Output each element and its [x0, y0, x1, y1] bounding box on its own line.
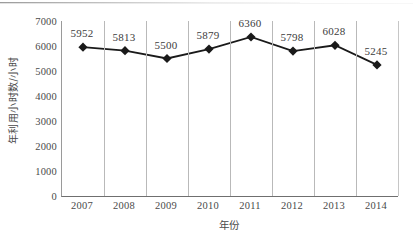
- data-point-label: 5813: [113, 31, 136, 43]
- plot-area: [61, 21, 398, 197]
- y-axis-tick-label: 5000: [35, 66, 57, 77]
- x-axis-tick-label: 2007: [71, 200, 93, 211]
- x-axis-title: 年份: [61, 217, 397, 232]
- y-axis-title-text: 年利用小时数/小时: [5, 57, 20, 144]
- y-axis-tick-label: 3000: [35, 116, 57, 127]
- y-axis-tick-label: 7000: [35, 16, 57, 27]
- data-point-label: 5245: [365, 45, 388, 57]
- vertical-gridline: [104, 21, 105, 196]
- y-axis-tick-labels: 01000200030004000500060007000: [22, 0, 59, 210]
- vertical-gridline: [188, 21, 189, 196]
- data-point-label: 5952: [71, 27, 94, 39]
- x-axis-tick-label: 2009: [155, 200, 177, 211]
- x-axis-tick-label: 2011: [239, 200, 260, 211]
- data-point-label: 5879: [197, 29, 220, 41]
- y-axis-tick-label: 0: [52, 191, 57, 202]
- plot-right-border: [398, 21, 399, 196]
- data-point-marker: [78, 43, 87, 52]
- vertical-gridline: [314, 21, 315, 196]
- data-point-marker: [372, 60, 381, 69]
- y-axis-tick-label: 2000: [35, 141, 57, 152]
- x-axis-tick-label: 2012: [281, 200, 303, 211]
- y-axis-tick-label: 6000: [35, 41, 57, 52]
- x-axis-tick-label: 2013: [323, 200, 345, 211]
- vertical-gridline: [356, 21, 357, 196]
- data-point-label: 6028: [323, 25, 346, 37]
- y-axis-tick-label: 1000: [35, 166, 57, 177]
- data-point-label: 5798: [281, 31, 304, 43]
- x-axis-tick-label: 2010: [197, 200, 219, 211]
- data-point-label: 5500: [155, 39, 178, 51]
- data-point-marker: [330, 41, 339, 50]
- vertical-gridline: [146, 21, 147, 196]
- data-point-label: 6360: [239, 17, 262, 29]
- vertical-gridline: [272, 21, 273, 196]
- data-point-marker: [246, 32, 255, 41]
- data-point-marker: [204, 44, 213, 53]
- x-axis-tick-label: 2014: [365, 200, 387, 211]
- vertical-gridline: [230, 21, 231, 196]
- x-axis-tick-label: 2008: [113, 200, 135, 211]
- line-chart: 年利用小时数/小时 01000200030004000500060007000 …: [0, 0, 413, 241]
- data-point-marker: [120, 46, 129, 55]
- data-point-marker: [288, 46, 297, 55]
- y-axis-title: 年利用小时数/小时: [2, 0, 22, 200]
- x-axis-tick-labels: 20072008200920102011201220132014: [61, 200, 397, 216]
- data-point-marker: [162, 54, 171, 63]
- y-axis-tick-label: 4000: [35, 91, 57, 102]
- scan-artifact-line-secondary: [0, 3, 413, 4]
